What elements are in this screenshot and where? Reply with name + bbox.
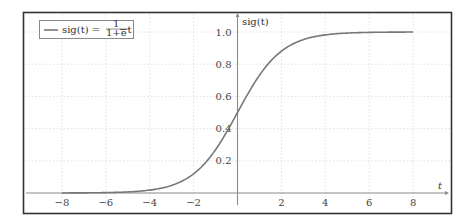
x-tick-label: −8 — [55, 197, 70, 208]
y-tick-label: 0.8 — [216, 59, 232, 70]
legend-label: sig(t) = — [62, 24, 100, 35]
sigmoid-chart: −8−6−4−224680.20.40.60.81.0 sig(t) t sig… — [0, 0, 469, 224]
x-tick-label: −4 — [142, 197, 157, 208]
x-tick-label: 2 — [278, 197, 284, 208]
y-axis-label: sig(t) — [242, 16, 269, 27]
x-tick-label: 6 — [366, 197, 372, 208]
x-tick-label: −2 — [186, 197, 201, 208]
x-tick-label: 8 — [410, 197, 416, 208]
y-tick-label: 0.6 — [216, 91, 232, 102]
legend-fraction-exponent: −t — [119, 24, 131, 35]
x-tick-label: −6 — [98, 197, 113, 208]
y-tick-label: 1.0 — [216, 27, 232, 38]
y-tick-label: 0.2 — [216, 155, 232, 166]
x-tick-label: 4 — [322, 197, 328, 208]
legend: sig(t) = 1 1+e −t — [40, 18, 134, 39]
